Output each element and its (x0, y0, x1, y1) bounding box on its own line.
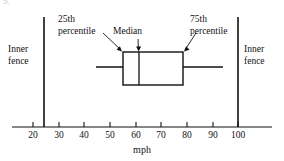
q3-annotation-line2: percentile (190, 26, 227, 38)
median-annotation-line1: Median (113, 26, 142, 38)
x-tick-label: 20 (28, 131, 38, 141)
x-tick-label: 80 (182, 131, 192, 141)
boxplot-figure: 5. (0, 0, 284, 161)
inner-fence-label-right-line1: Inner (244, 44, 265, 56)
x-axis-title: mph (133, 145, 151, 156)
median-annotation-label: Median (113, 26, 142, 38)
q3-annotation-label: 75th percentile (190, 14, 227, 38)
inner-fence-label-left-line2: fence (8, 56, 29, 68)
x-axis-ticks (33, 122, 238, 127)
q1-annotation-line1: 25th (58, 14, 95, 26)
x-tick-label: 30 (54, 131, 64, 141)
q1-annotation-label: 25th percentile (58, 14, 95, 38)
x-tick-label: 50 (105, 131, 115, 141)
x-tick-label: 40 (79, 131, 89, 141)
q1-annotation-line2: percentile (58, 26, 95, 38)
inner-fence-label-left: Inner fence (8, 44, 29, 68)
x-tick-label: 90 (208, 131, 218, 141)
q3-annotation-line1: 75th (190, 14, 227, 26)
inner-fence-label-right: Inner fence (244, 44, 265, 68)
x-tick-label: 70 (156, 131, 166, 141)
median-arrowhead (136, 46, 141, 51)
q3-arrowhead (184, 46, 190, 51)
x-tick-label: 60 (131, 131, 141, 141)
inner-fence-label-left-line1: Inner (8, 44, 29, 56)
inner-fence-label-right-line2: fence (244, 56, 265, 68)
box-iqr (123, 52, 183, 85)
x-tick-label: 100 (231, 131, 245, 141)
